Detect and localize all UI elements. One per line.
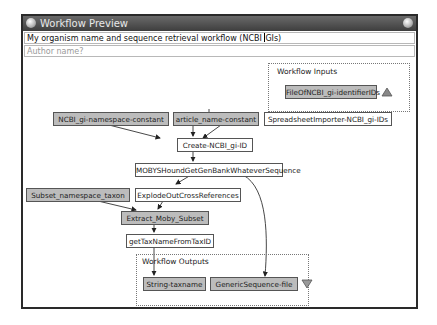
node-article-name-constant[interactable]: article_name-constant [173, 112, 259, 126]
workflow-name-input[interactable]: My organism name and sequence retrieval … [24, 32, 415, 44]
text-caret [264, 33, 265, 42]
node-mobyshound-get-genbank[interactable]: MOBYSHoundGetGenBankWhateverSequence [135, 163, 283, 177]
workflow-preview-window: Workflow Preview My organism name and se… [21, 14, 418, 309]
node-extract-moby-subset[interactable]: Extract_Moby_Subset [121, 211, 209, 225]
workflow-outputs-label: Workflow Outputs [142, 257, 209, 266]
author-placeholder: Author name? [27, 47, 83, 56]
node-create-ncbi-gi-id[interactable]: Create-NCBI_gi-ID [177, 138, 253, 152]
node-get-tax-name-from-tax-id[interactable]: getTaxNameFromTaxID [126, 234, 214, 248]
workflow-name-text: My organism name and sequence retrieval … [27, 34, 281, 43]
workflow-inputs-label: Workflow Inputs [277, 67, 337, 76]
output-node-generic-sequence-file[interactable]: GenericSequence-file [210, 277, 298, 291]
window-menu-icon[interactable] [26, 18, 36, 28]
title-bar[interactable]: Workflow Preview [23, 16, 416, 31]
workflow-diagram-canvas: Workflow Inputs FileOfNCBI_gi-identifier… [23, 58, 416, 307]
node-ncbi-gi-namespace-constant[interactable]: NCBI_gi-namespace-constant [53, 112, 169, 126]
input-node-file-of-ncbi-gi[interactable]: FileOfNCBI_gi-identifierIDs [285, 85, 377, 99]
window-title: Workflow Preview [40, 16, 128, 31]
node-spreadsheet-importer[interactable]: SpreadsheetImporter-NCBI_gi-IDs [264, 112, 392, 126]
node-subset-namespace-taxon[interactable]: Subset_namespace_taxon [26, 188, 130, 202]
node-explode-out-cross-references[interactable]: ExplodeOutCrossReferences [135, 188, 241, 202]
output-node-string-taxname[interactable]: String-taxname [143, 277, 206, 291]
triangle-down-icon[interactable] [301, 279, 313, 289]
triangle-up-icon[interactable] [381, 87, 393, 97]
author-name-input[interactable]: Author name? [24, 45, 415, 57]
window-close-icon[interactable] [403, 18, 413, 28]
